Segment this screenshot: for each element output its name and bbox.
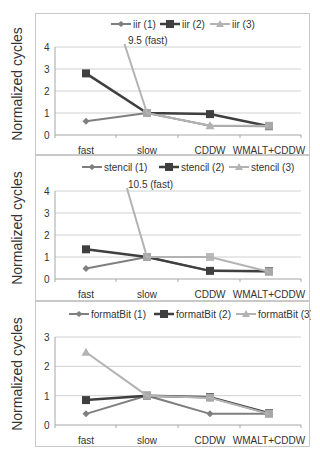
square-marker-icon xyxy=(206,394,214,402)
legend-item: formatBit (1) xyxy=(69,309,146,320)
legend-label: stencil (3) xyxy=(251,162,294,173)
square-marker-icon xyxy=(82,396,90,404)
square-marker-icon xyxy=(206,253,214,261)
y-tick-label: 3 xyxy=(44,208,50,219)
legend-label: iir (2) xyxy=(182,19,205,30)
line-chart: 01234fastslowCDDWWMALT+CDDW10.5 (fast)st… xyxy=(36,156,311,302)
legend-label: stencil (2) xyxy=(181,162,224,173)
legend-item: iir (3) xyxy=(210,19,255,30)
y-tick-label: 0 xyxy=(44,420,50,431)
x-tick-label: fast xyxy=(78,289,94,300)
y-tick-label: 2 xyxy=(44,86,50,97)
diamond-marker-icon xyxy=(83,265,90,272)
legend-item: stencil (2) xyxy=(159,162,224,173)
y-axis-label: Normalized cycles xyxy=(0,301,34,447)
y-axis-label: Normalized cycles xyxy=(0,155,34,301)
x-tick-label: fast xyxy=(78,435,94,446)
series-1 xyxy=(82,69,273,130)
square-marker-icon xyxy=(206,267,214,275)
square-marker-icon xyxy=(82,245,90,253)
square-legend-icon xyxy=(166,20,174,28)
y-axis-label-text: Normalized cycles xyxy=(9,171,25,285)
square-marker-icon xyxy=(265,410,273,418)
annotation-label: 10.5 (fast) xyxy=(128,179,173,190)
y-axis-label-text: Normalized cycles xyxy=(9,27,25,141)
y-tick-label: 4 xyxy=(44,186,50,197)
series-line xyxy=(86,249,269,271)
x-tick-label: CDDW xyxy=(194,289,226,300)
y-axis-label: Normalized cycles xyxy=(0,13,34,155)
y-tick-label: 1 xyxy=(44,391,50,402)
y-tick-label: 0 xyxy=(44,130,50,141)
x-tick-label: WMALT+CDDW xyxy=(233,289,306,300)
y-tick-label: 3 xyxy=(44,64,50,75)
x-tick-label: slow xyxy=(137,435,158,446)
diamond-marker-icon xyxy=(207,410,214,417)
diamond-marker-icon xyxy=(83,410,90,417)
legend-item: iir (1) xyxy=(111,19,156,30)
x-tick-label: WMALT+CDDW xyxy=(233,435,306,446)
chart-panel-formatbit: 0123fastslowCDDWWMALT+CDDWformatBit (1)f… xyxy=(35,301,310,447)
diamond-legend-icon xyxy=(76,311,83,317)
square-marker-icon xyxy=(206,110,214,118)
series-2 xyxy=(124,44,273,130)
y-axis-label-text: Normalized cycles xyxy=(9,317,25,431)
triangle-marker-icon xyxy=(82,348,91,356)
y-tick-label: 2 xyxy=(44,361,50,372)
legend-label: iir (1) xyxy=(133,19,156,30)
series-1 xyxy=(82,245,273,275)
y-tick-label: 1 xyxy=(44,252,50,263)
diamond-legend-icon xyxy=(118,21,125,27)
legend-label: iir (3) xyxy=(232,19,255,30)
chart-panel-iir: 01234fastslowCDDWWMALT+CDDW9.5 (fast)iir… xyxy=(35,13,310,155)
y-tick-label: 0 xyxy=(44,274,50,285)
square-marker-icon xyxy=(82,69,90,77)
diamond-legend-icon xyxy=(89,164,96,170)
line-chart: 01234fastslowCDDWWMALT+CDDW9.5 (fast)iir… xyxy=(36,14,311,156)
square-legend-icon xyxy=(160,310,168,318)
x-tick-label: slow xyxy=(137,289,158,300)
y-tick-label: 1 xyxy=(44,108,50,119)
y-tick-label: 2 xyxy=(44,230,50,241)
legend-item: iir (2) xyxy=(160,19,205,30)
legend-item: formatBit (2) xyxy=(154,309,231,320)
chart-panel-stencil: 01234fastslowCDDWWMALT+CDDW10.5 (fast)st… xyxy=(35,155,310,301)
legend-label: stencil (1) xyxy=(104,162,147,173)
diamond-marker-icon xyxy=(83,118,90,125)
legend-label: formatBit (2) xyxy=(176,309,231,320)
line-chart: 0123fastslowCDDWWMALT+CDDWformatBit (1)f… xyxy=(36,302,311,448)
legend-item: stencil (1) xyxy=(82,162,147,173)
square-marker-icon xyxy=(143,109,151,117)
legend-label: formatBit (1) xyxy=(91,309,146,320)
x-tick-label: CDDW xyxy=(194,435,226,446)
square-marker-icon xyxy=(143,253,151,261)
y-tick-label: 3 xyxy=(44,332,50,343)
square-marker-icon xyxy=(265,122,273,130)
square-legend-icon xyxy=(165,163,173,171)
legend-item: formatBit (3) xyxy=(236,309,311,320)
square-marker-icon xyxy=(143,392,151,400)
square-marker-icon xyxy=(265,268,273,276)
series-2 xyxy=(127,188,273,276)
y-tick-label: 4 xyxy=(44,42,50,53)
annotation-label: 9.5 (fast) xyxy=(128,35,167,46)
legend-label: formatBit (3) xyxy=(258,309,311,320)
legend-item: stencil (3) xyxy=(229,162,294,173)
